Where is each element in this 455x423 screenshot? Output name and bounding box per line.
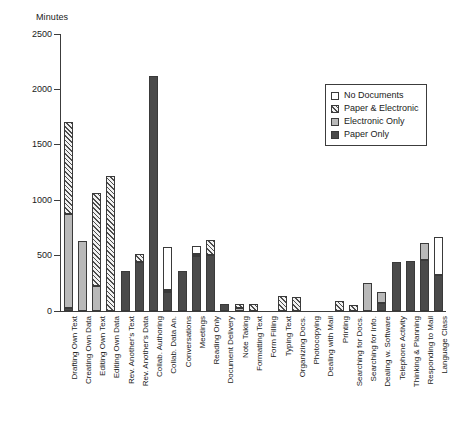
bar-segment [206,255,215,311]
bar [249,304,258,311]
chart-figure: Minutes 05001000150020002500 Drafting Ow… [0,0,455,423]
bar-segment [235,308,244,311]
x-tick-label: Creating Own Data [85,316,93,384]
legend-item: Paper Only [331,128,419,141]
legend-swatch [331,118,339,126]
bar-segment [420,260,429,311]
y-tick-label: 500 [37,251,52,260]
bar [406,261,415,311]
bar [349,305,358,311]
bar [278,296,287,312]
bar [220,304,229,311]
bar-segment [249,304,258,311]
bar-segment [135,262,144,311]
bar [335,301,344,311]
bar [363,283,372,311]
bar [420,243,429,311]
legend-label: No Documents [344,91,404,100]
bar [149,76,158,311]
plot-area [60,34,445,311]
bar [92,193,101,311]
bar-segment [64,122,73,214]
bar-segment [135,254,144,262]
y-tick-label: 2500 [32,30,52,39]
x-tick-label: Language Class [441,316,449,374]
y-tick-label: 1500 [32,140,52,149]
x-tick-label: Editing Own Data [113,316,121,378]
x-tick-label: Document Delivery [227,316,235,384]
bar-segment [163,247,172,290]
legend-label: Paper & Electronic [344,104,419,113]
x-tick-label: Searching for Docs. [356,316,364,386]
bar-segment [406,261,415,311]
x-tick-label: Formatting Text [256,316,264,371]
bar-segment [192,246,201,254]
bar-segment [434,237,443,275]
x-tick-label: Telephone Activity [399,316,407,380]
bar-segment [163,292,172,311]
bar [192,246,201,311]
x-tick-label: Drafting Own Text [71,316,79,379]
x-tick-label: Rev. Another's Text [128,316,136,384]
x-tick-label: Rev. Another's Data [142,316,150,386]
bar-segment [292,297,301,311]
bar-segment [434,275,443,311]
bar-segment [106,176,115,311]
x-tick-label: Printing [342,316,350,343]
bar-segment [92,193,101,286]
y-tick-label: 2000 [32,85,52,94]
y-tick-label: 0 [47,307,52,316]
legend-item: Electronic Only [331,115,419,128]
x-tick-label: Dealing w. Software [384,316,392,387]
bar-segment [420,243,429,260]
x-tick-label: Typing Text [285,316,293,356]
bar [78,241,87,311]
bar-segment [349,305,358,311]
bar [121,271,130,311]
x-tick-label: Searching for Info. [370,316,378,381]
bar-segment [92,286,101,311]
legend-item: No Documents [331,89,419,102]
x-tick-label: Photocopying [313,316,321,364]
chart-legend: No DocumentsPaper & ElectronicElectronic… [325,84,427,146]
bar [377,292,386,311]
bar [434,237,443,311]
x-tick-label: Dealing with Mail [327,316,335,376]
bar-segment [377,303,386,311]
x-tick-label: Collab. Authoring [156,316,164,377]
bar [292,297,301,311]
bar [178,271,187,311]
bar [106,176,115,311]
legend-swatch [331,92,339,100]
x-tick-label: Organizing Docs. [299,316,307,377]
bar-segment [192,256,201,311]
legend-item: Paper & Electronic [331,102,419,115]
x-axis-line [60,311,446,312]
bar-segment [363,283,372,311]
y-tick-label: 1000 [32,196,52,205]
legend-label: Electronic Only [344,117,405,126]
x-tick-label: Meetings [199,316,207,348]
bar [392,262,401,311]
legend-swatch [331,105,339,113]
x-tick-label: Thinking & Planning [413,316,421,387]
x-tick-label: Form Filling [270,316,278,358]
x-tick-label: Editing Own Text [99,316,107,376]
legend-swatch [331,131,339,139]
bar [206,240,215,311]
bar [163,247,172,311]
bar [135,254,144,311]
bar-segment [335,301,344,311]
bar-segment [278,296,287,312]
bar-segment [121,271,130,311]
bar-segment [64,308,73,311]
bar-segment [377,292,386,304]
bar-segment [64,214,73,308]
x-tick-label: Reading Only [213,316,221,364]
bar [235,304,244,311]
bar-segment [78,241,87,311]
bar [64,122,73,311]
x-tick-label: Conversations [185,316,193,367]
bar-segment [178,271,187,311]
bar-segment [220,304,229,311]
